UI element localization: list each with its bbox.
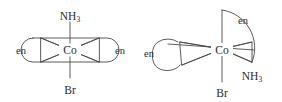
axial-top-ligand-label: NH3 (60, 10, 81, 24)
nh-subscript: 3 (258, 75, 262, 84)
left-ligand-label-en: en (144, 48, 155, 59)
structure-trans-isomer: Co NH3 Br en en (16, 10, 126, 96)
right-ligand-label-en: en (115, 45, 126, 56)
center-atom-label-co: Co (215, 44, 229, 56)
axial-bottom-ligand-label-br: Br (216, 87, 228, 99)
axial-top-ligand-nh3: NH3 (60, 10, 81, 24)
structure-cis-isomer: Co en en NH3 Br (144, 10, 262, 99)
top-ligand-label-en: en (238, 15, 249, 26)
lower-right-ligand-label-nh3: NH3 (242, 70, 263, 84)
chemical-structure-figure: Co NH3 Br en en (0, 0, 282, 102)
nh-text: NH (242, 70, 259, 82)
center-atom-label-co: Co (63, 44, 77, 56)
nh-subscript: 3 (76, 15, 80, 24)
structures-canvas: Co NH3 Br en en (0, 0, 282, 102)
nh-text: NH (60, 10, 77, 22)
left-ligand-label-en: en (16, 45, 27, 56)
axial-bottom-ligand-label-br: Br (64, 84, 76, 96)
left-en-chelate-loop (152, 39, 180, 71)
